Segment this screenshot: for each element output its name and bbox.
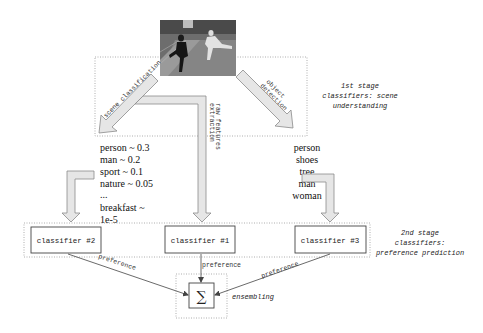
svg-text:classifier #2: classifier #2 xyxy=(37,237,96,245)
svg-text:classifiers:: classifiers: xyxy=(395,239,445,247)
preference-label-left: preference xyxy=(97,253,136,272)
svg-text:...: ... xyxy=(100,189,108,200)
svg-text:understanding: understanding xyxy=(333,102,388,110)
svg-text:classifiers: scene: classifiers: scene xyxy=(322,92,398,100)
svg-text:nature ~ 0.05: nature ~ 0.05 xyxy=(100,178,153,189)
svg-text:classifier #3: classifier #3 xyxy=(301,237,360,245)
svg-text:person ~ 0.3: person ~ 0.3 xyxy=(100,142,150,153)
svg-text:breakfast ~: breakfast ~ xyxy=(100,202,145,213)
input-photo xyxy=(160,20,236,76)
scene-outputs-list: person ~ 0.3 man ~ 0.2 sport ~ 0.1 natur… xyxy=(100,142,153,225)
preference-label-right: preference xyxy=(260,261,299,280)
svg-text:shoes: shoes xyxy=(296,154,318,165)
pipeline-diagram: scene classification raw features extrac… xyxy=(0,0,483,333)
svg-text:sport ~ 0.1: sport ~ 0.1 xyxy=(100,166,143,177)
sum-box: ∑ xyxy=(189,283,214,308)
classifier-2-box: classifier #2 xyxy=(31,227,101,253)
svg-text:woman: woman xyxy=(292,190,321,201)
sigma-icon: ∑ xyxy=(197,288,207,304)
scene-to-classifier2-arrow xyxy=(62,171,94,222)
svg-text:classifier #1: classifier #1 xyxy=(171,237,230,245)
scene-classification-label: scene classification xyxy=(102,59,162,119)
svg-text:man ~ 0.2: man ~ 0.2 xyxy=(100,154,140,165)
svg-text:person: person xyxy=(294,142,321,153)
stage2-note: 2nd stage classifiers: preference predic… xyxy=(375,229,464,257)
raw-features-arrow xyxy=(135,96,211,222)
svg-text:1e-5: 1e-5 xyxy=(100,214,118,225)
object-outputs-list: person shoes tree man woman xyxy=(292,142,321,201)
edge-classifier2-to-sum xyxy=(68,254,188,295)
classifier-1-box: classifier #1 xyxy=(165,226,235,253)
svg-text:1st stage: 1st stage xyxy=(341,82,379,90)
ensembling-label: ensembling xyxy=(232,293,274,301)
raw-features-label-2: extraction xyxy=(208,103,215,142)
classifier-3-box: classifier #3 xyxy=(295,226,366,253)
preference-label-mid: preference xyxy=(202,262,241,269)
object-detection-arrow xyxy=(236,70,293,128)
svg-text:2nd stage: 2nd stage xyxy=(401,229,439,237)
svg-text:preference prediction: preference prediction xyxy=(375,249,464,257)
stage1-note: 1st stage classifiers: scene understandi… xyxy=(322,82,398,110)
